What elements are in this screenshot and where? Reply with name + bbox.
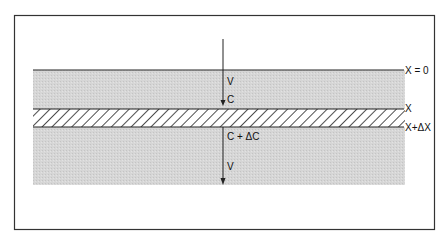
label-boundary-x-dx: X+ΔX [405,122,431,133]
label-boundary-x0: X = 0 [405,65,429,76]
label-concentration-in: C [227,94,234,105]
hatched-slab [33,109,405,127]
label-velocity-in: V [227,76,234,87]
label-concentration-out: C + ΔC [227,131,260,142]
diagram-canvas: V C C + ΔC V X = 0 X X+ΔX [0,0,447,241]
label-boundary-x: X [405,103,412,114]
label-velocity-out: V [227,161,234,172]
